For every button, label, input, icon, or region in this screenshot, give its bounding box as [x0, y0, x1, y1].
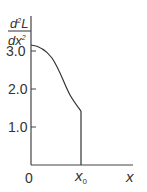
ytick-label-3: 3.0 — [6, 43, 26, 59]
xlabel: x — [125, 168, 134, 185]
ylabel-numerator: d2L — [10, 16, 28, 31]
ytick-label-2: 2.0 — [8, 81, 28, 97]
curve-series — [31, 45, 81, 111]
xtick-label-x0: x0 — [74, 167, 88, 186]
ytick-label-1: 1.0 — [8, 119, 28, 135]
chart: d2L dx2 3.0 2.0 1.0 0 x0 x — [0, 0, 147, 192]
xtick-label-origin: 0 — [25, 170, 33, 186]
